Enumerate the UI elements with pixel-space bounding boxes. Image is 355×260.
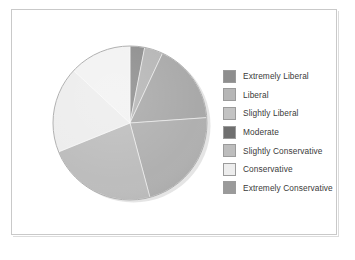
legend-swatch-icon [223, 70, 236, 83]
legend-swatch-icon [223, 181, 236, 194]
legend-item-label: Slightly Liberal [243, 109, 299, 117]
legend-item: Slightly Conservative [223, 141, 351, 160]
legend-item-label: Conservative [243, 165, 293, 173]
legend-swatch-icon [223, 126, 236, 139]
legend-swatch-icon [223, 107, 236, 120]
legend-item-label: Moderate [243, 128, 279, 136]
legend-item: Liberal [223, 86, 351, 105]
legend-item: Moderate [223, 123, 351, 142]
chart-frame: Extremely LiberalLiberalSlightly Liberal… [11, 9, 337, 235]
legend-item-label: Extremely Conservative [243, 184, 333, 192]
legend-item: Extremely Conservative [223, 179, 351, 198]
legend-swatch-icon [223, 88, 236, 101]
legend-item-label: Extremely Liberal [243, 72, 309, 80]
pie-chart [42, 32, 222, 216]
legend-item: Slightly Liberal [223, 104, 351, 123]
legend-item-label: Slightly Conservative [243, 147, 323, 155]
legend-item: Extremely Liberal [223, 67, 351, 86]
legend-swatch-icon [223, 144, 236, 157]
legend-swatch-icon [223, 163, 236, 176]
chart-legend: Extremely LiberalLiberalSlightly Liberal… [223, 67, 351, 197]
pie-shading-overlay [53, 46, 207, 200]
legend-item: Conservative [223, 160, 351, 179]
legend-item-label: Liberal [243, 91, 269, 99]
figure-root: Extremely LiberalLiberalSlightly Liberal… [0, 0, 355, 260]
pie-svg [42, 32, 222, 216]
